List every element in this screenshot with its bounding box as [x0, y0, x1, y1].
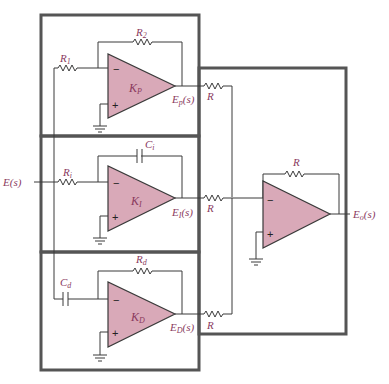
kd-ground-wire: [100, 332, 108, 355]
summer-ground-wire: [256, 232, 263, 259]
r1-label: R1: [59, 52, 71, 66]
minus-sign: −: [113, 294, 119, 306]
r-p-label: R: [206, 90, 214, 102]
minus-sign: −: [113, 177, 119, 189]
r2-label: R2: [135, 26, 147, 40]
r-d-label: R: [206, 319, 214, 331]
summer-r-label: R: [292, 156, 300, 168]
ei-label: EI(s): [171, 206, 193, 220]
plus-sign: +: [112, 211, 118, 223]
ground-icon: [249, 259, 263, 265]
cd-capacitor: [63, 292, 68, 306]
minus-sign: −: [267, 194, 273, 206]
rd-label: Rd: [135, 253, 148, 267]
output-eo-label: Eo(s): [352, 208, 376, 222]
ep-label: Ep(s): [171, 93, 195, 107]
cd-label: Cd: [60, 276, 72, 290]
plus-sign: +: [112, 99, 118, 111]
summing-stage: [249, 171, 350, 265]
minus-sign: −: [113, 63, 119, 75]
ki-ground-wire: [100, 216, 108, 238]
ri-resistor: [54, 179, 108, 185]
integral-stage: [54, 149, 258, 244]
pid-opamp-diagram: − + R1 R2 KP Ep(s) R − + E(s) Ri Ci KI E…: [0, 0, 389, 384]
ci-label: Ci: [145, 138, 155, 152]
ground-icon: [93, 238, 107, 244]
r-i-label: R: [206, 202, 214, 214]
plus-sign: +: [267, 228, 273, 240]
circuit-svg: − + R1 R2 KP Ep(s) R − + E(s) Ri Ci KI E…: [0, 0, 389, 384]
input-es-label: E(s): [2, 176, 22, 189]
ground-icon: [93, 126, 107, 132]
ri-label: Ri: [62, 166, 72, 180]
kp-ground-wire: [100, 104, 108, 126]
ground-icon: [93, 355, 107, 361]
ed-label: ED(s): [169, 321, 194, 335]
r1-resistor: [54, 65, 108, 71]
ei-summing-resistor: [175, 195, 258, 201]
derivative-stage: [54, 198, 232, 361]
proportional-stage: [54, 39, 232, 197]
plus-sign: +: [112, 327, 118, 339]
